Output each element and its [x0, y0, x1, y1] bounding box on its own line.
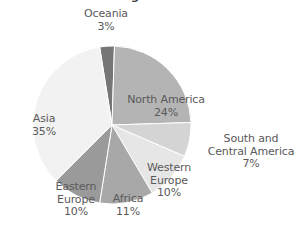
slice-label-south-and-central-america: South and Central America 7%	[199, 133, 303, 171]
slice-label-oceania: Oceania 3%	[56, 8, 156, 33]
slice-label-north-america: North America 24%	[118, 94, 214, 119]
slice-label-eastern-europe: Eastern Europe 10%	[47, 181, 105, 219]
slice-label-asia-value: 35%	[17, 126, 71, 139]
slice-label-africa: Africa 11%	[101, 193, 155, 218]
slice-label-africa-name: Africa	[101, 193, 155, 206]
slice-label-south-and-central-america-line1: South and	[199, 133, 303, 146]
slice-label-oceania-name: Oceania	[56, 8, 156, 21]
slice-label-western-europe-line1: Western	[138, 162, 200, 175]
slice-label-asia-name: Asia	[17, 113, 71, 126]
slice-label-africa-value: 11%	[101, 206, 155, 219]
slice-label-eastern-europe-line1: Eastern	[47, 181, 105, 194]
slice-label-north-america-name: North America	[118, 94, 214, 107]
slice-label-asia: Asia 35%	[17, 113, 71, 138]
slice-label-oceania-value: 3%	[56, 21, 156, 34]
slice-label-eastern-europe-value: 10%	[47, 206, 105, 219]
slice-label-north-america-value: 24%	[118, 107, 214, 120]
pie-chart-figure: different regions of the world Oceania 3…	[0, 0, 303, 240]
slice-label-south-and-central-america-value: 7%	[199, 158, 303, 171]
